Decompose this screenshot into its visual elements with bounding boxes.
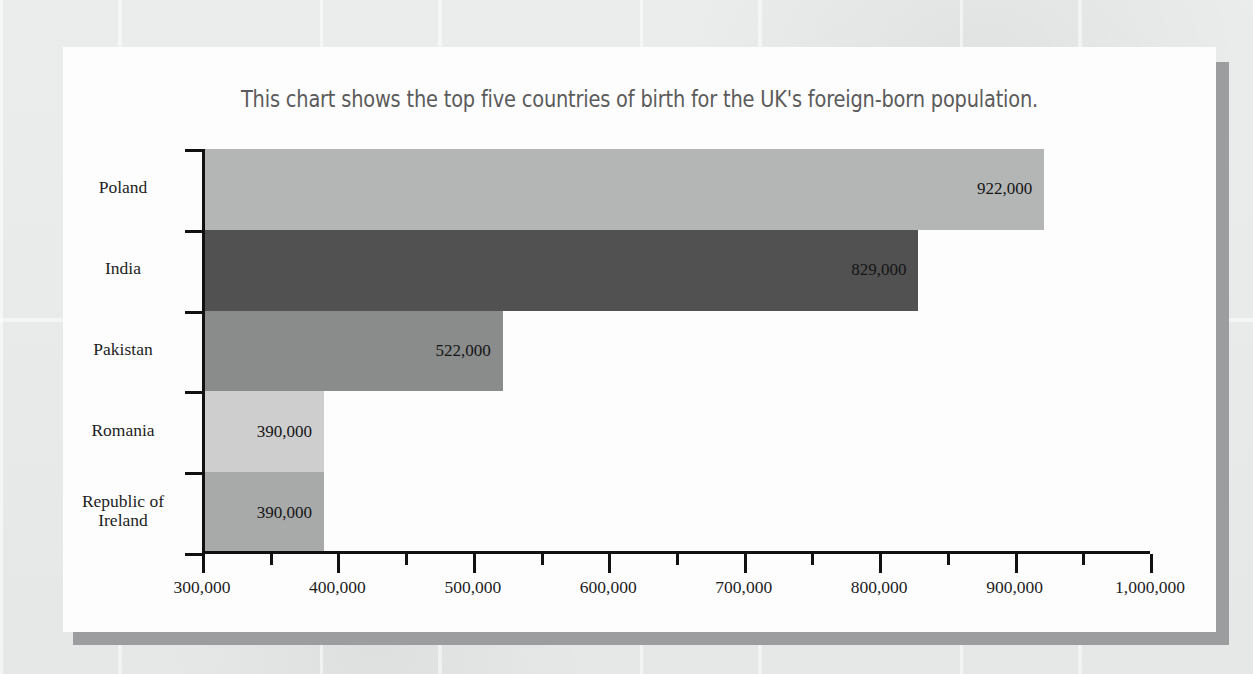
x-axis-tick-minor: [541, 554, 544, 565]
category-label: India: [43, 259, 203, 279]
bar-value-label: 522,000: [407, 341, 491, 361]
bar-value-label: 922,000: [948, 179, 1032, 199]
x-axis-tick-label: 900,000: [945, 577, 1085, 598]
x-axis-tick-minor: [947, 554, 950, 565]
x-axis-tick-label: 1,000,000: [1080, 577, 1220, 598]
x-axis-tick-label: 300,000: [132, 577, 272, 598]
y-axis-tick: [185, 230, 205, 233]
x-axis-tick-major: [744, 554, 747, 573]
x-axis-tick-label: 500,000: [403, 577, 543, 598]
bar: [202, 149, 1044, 230]
x-axis-tick-label: 400,000: [267, 577, 407, 598]
chart-card: This chart shows the top five countries …: [63, 47, 1216, 632]
x-axis-tick-label: 800,000: [809, 577, 949, 598]
x-axis-tick-minor: [811, 554, 814, 565]
bar-value-label: 390,000: [228, 422, 312, 442]
category-label: Romania: [43, 421, 203, 441]
bar: [202, 230, 918, 311]
y-axis-line: [202, 149, 205, 553]
x-axis-tick-major: [202, 554, 205, 573]
category-label: Poland: [43, 178, 203, 198]
x-axis-tick-major: [1150, 554, 1153, 573]
y-axis-tick: [185, 391, 205, 394]
y-axis-tick: [185, 149, 205, 152]
x-axis-tick-major: [608, 554, 611, 573]
x-axis-tick-label: 600,000: [538, 577, 678, 598]
x-axis-tick-major: [473, 554, 476, 573]
card-shadow-right: [1216, 62, 1229, 645]
bar-value-label: 390,000: [228, 503, 312, 523]
y-axis-tick: [185, 472, 205, 475]
bar-chart-plot-area: 922,000829,000522,000390,000390,000 Pola…: [63, 47, 1216, 632]
category-label: Republic of Ireland: [43, 492, 203, 531]
bar-value-label: 829,000: [822, 260, 906, 280]
x-axis-tick-major: [879, 554, 882, 573]
x-axis-tick-minor: [676, 554, 679, 565]
y-axis-tick: [185, 311, 205, 314]
x-axis-tick-minor: [405, 554, 408, 565]
x-axis-tick-minor: [1082, 554, 1085, 565]
x-axis-tick-major: [1015, 554, 1018, 573]
x-axis-tick-minor: [270, 554, 273, 565]
x-axis-tick-major: [337, 554, 340, 573]
card-shadow-bottom: [73, 632, 1229, 645]
category-label: Pakistan: [43, 340, 203, 360]
x-axis-tick-label: 700,000: [674, 577, 814, 598]
